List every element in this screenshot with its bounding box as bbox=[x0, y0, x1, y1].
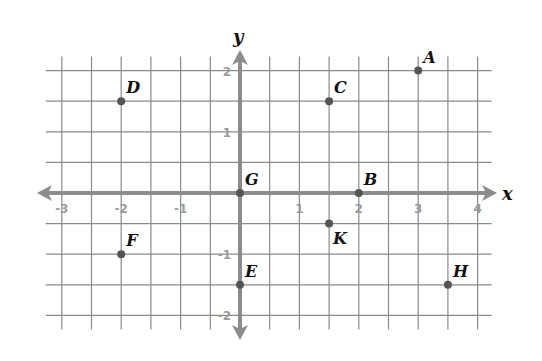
x-tick-label: 4 bbox=[473, 202, 481, 216]
point-label: D bbox=[125, 78, 140, 97]
point-label: G bbox=[245, 170, 259, 189]
point-label: E bbox=[244, 262, 258, 281]
point-marker bbox=[414, 67, 422, 75]
coordinate-plane: x y -3-2-1123421-1-2 ABCDEFGHK bbox=[0, 0, 542, 361]
axes: x y bbox=[37, 26, 513, 340]
x-tick-label: 3 bbox=[414, 202, 422, 216]
point-label: K bbox=[332, 229, 348, 248]
y-tick-label: -2 bbox=[218, 309, 231, 323]
point-label: A bbox=[421, 48, 435, 67]
point-marker bbox=[325, 97, 333, 105]
point-marker bbox=[117, 97, 125, 105]
point-label: H bbox=[452, 262, 469, 281]
y-tick-label: 1 bbox=[223, 126, 231, 140]
x-tick-label: 2 bbox=[355, 202, 363, 216]
point-marker bbox=[117, 250, 125, 258]
point-marker bbox=[236, 189, 244, 197]
y-tick-label: -1 bbox=[218, 248, 231, 262]
point-label: C bbox=[334, 78, 347, 97]
data-points: ABCDEFGHK bbox=[117, 48, 469, 289]
point-marker bbox=[325, 220, 333, 228]
x-tick-label: -1 bbox=[174, 202, 187, 216]
x-tick-label: -2 bbox=[115, 202, 128, 216]
x-tick-label: 1 bbox=[295, 202, 303, 216]
x-axis-label: x bbox=[501, 183, 513, 204]
x-tick-label: -3 bbox=[55, 202, 68, 216]
y-tick-label: 2 bbox=[223, 65, 231, 79]
point-label: B bbox=[363, 170, 378, 189]
y-axis-label: y bbox=[232, 26, 245, 47]
point-marker bbox=[355, 189, 363, 197]
point-label: F bbox=[125, 231, 139, 250]
point-marker bbox=[444, 281, 452, 289]
point-marker bbox=[236, 281, 244, 289]
